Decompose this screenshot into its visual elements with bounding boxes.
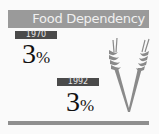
stat-value-1992: 3% — [66, 88, 94, 116]
stat-unit: % — [36, 48, 50, 67]
page-title: Food Dependency — [32, 10, 145, 28]
stat-number: 3 — [66, 86, 80, 117]
header-bar: Food Dependency — [8, 10, 149, 28]
footer-bar — [8, 121, 149, 125]
year-label-1992: 1992 — [57, 78, 99, 86]
wheat-icon — [106, 38, 152, 114]
stat-value-1970: 3% — [22, 40, 50, 68]
stat-unit: % — [80, 96, 94, 115]
stat-number: 3 — [22, 38, 36, 69]
